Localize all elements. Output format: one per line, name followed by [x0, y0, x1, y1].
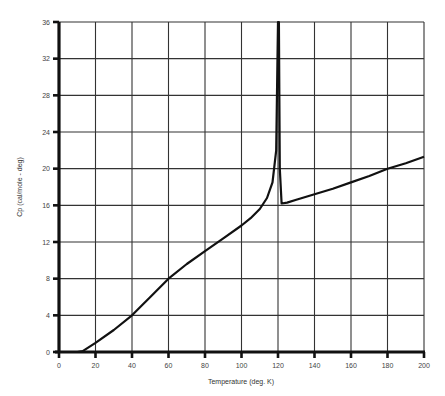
y-tick-label: 12	[42, 239, 50, 246]
x-tick-labels: 020406080100120140160180200	[57, 362, 430, 369]
y-tick-label: 20	[42, 165, 50, 172]
cp-vs-temperature-chart: 020406080100120140160180200 048121620242…	[0, 0, 445, 396]
x-tick-label: 40	[128, 362, 136, 369]
x-tick-label: 0	[57, 362, 61, 369]
y-tick-label: 16	[42, 202, 50, 209]
y-tick-label: 28	[42, 92, 50, 99]
x-tick-label: 120	[272, 362, 284, 369]
y-tick-labels: 04812162024283236	[42, 19, 50, 356]
x-tick-label: 160	[345, 362, 357, 369]
y-tick-label: 8	[46, 275, 50, 282]
y-tick-label: 4	[46, 312, 50, 319]
x-axis-title: Temperature (deg. K)	[208, 378, 274, 386]
x-tick-label: 20	[92, 362, 100, 369]
y-tick-label: 32	[42, 55, 50, 62]
y-tick-label: 36	[42, 19, 50, 26]
x-tick-label: 60	[165, 362, 173, 369]
y-tick-label: 24	[42, 129, 50, 136]
y-tick-label: 0	[46, 349, 50, 356]
x-tick-label: 200	[418, 362, 430, 369]
x-tick-label: 80	[201, 362, 209, 369]
x-tick-label: 100	[236, 362, 248, 369]
axes	[55, 22, 425, 352]
grid-lines	[59, 22, 424, 352]
x-tick-label: 140	[309, 362, 321, 369]
x-tick-label: 180	[382, 362, 394, 369]
y-axis-title: Cp (cal/mole - deg)	[16, 157, 24, 217]
axis-ticks	[53, 22, 424, 358]
